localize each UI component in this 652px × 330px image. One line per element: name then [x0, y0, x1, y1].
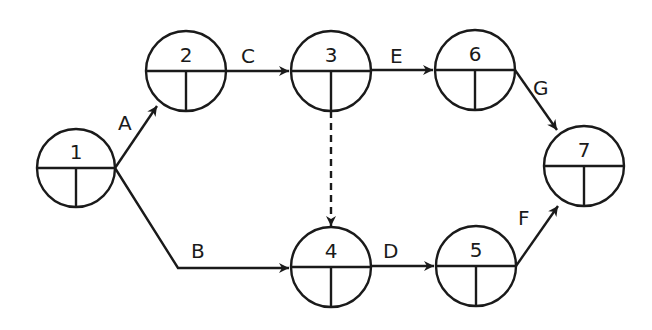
- node-label: 2: [180, 43, 193, 67]
- node-4: 4: [291, 227, 371, 307]
- node-5: 5: [436, 226, 516, 306]
- activity-label-D: D: [383, 239, 398, 263]
- node-1: 1: [37, 129, 115, 207]
- node-7: 7: [544, 126, 624, 206]
- node-label: 6: [469, 42, 482, 66]
- node-label: 1: [70, 140, 83, 164]
- node-2: 2: [146, 31, 226, 111]
- activity-label-A: A: [118, 111, 132, 135]
- node-6: 6: [435, 30, 515, 110]
- activity-label-F: F: [518, 206, 530, 230]
- network-diagram: A B C E G D F 1 2 3 6 7 4: [0, 0, 652, 330]
- activity-label-G: G: [533, 76, 549, 100]
- activity-label-E: E: [390, 44, 403, 68]
- node-label: 5: [470, 238, 483, 262]
- node-label: 7: [578, 138, 591, 162]
- node-3: 3: [291, 31, 371, 111]
- node-label: 4: [325, 239, 338, 263]
- activity-label-B: B: [191, 239, 205, 263]
- node-label: 3: [325, 43, 338, 67]
- activity-label-C: C: [241, 44, 255, 68]
